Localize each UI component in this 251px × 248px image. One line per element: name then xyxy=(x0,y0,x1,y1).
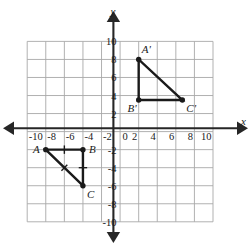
vertex-label-C: C xyxy=(87,188,95,200)
coordinate-plot-svg: -10-8-6-4-20246810 108642-2-4-6-8-10 y x… xyxy=(0,0,251,248)
y-tick-label: 8 xyxy=(111,54,116,65)
y-tick-label: 6 xyxy=(111,72,116,83)
vertex-dot-A-prime xyxy=(136,57,141,62)
vertex-dot-A xyxy=(43,147,48,152)
vertex-dot-C xyxy=(80,183,85,188)
y-tick-label: -10 xyxy=(103,217,117,228)
vertex-dot-B-prime xyxy=(136,97,141,102)
x-tick-label: 0 xyxy=(123,131,128,142)
y-axis-down-arrow-icon xyxy=(107,232,120,243)
y-tick-label: -8 xyxy=(108,199,117,210)
x-tick-label: 2 xyxy=(132,131,137,142)
x-tick-label: -10 xyxy=(29,131,43,142)
x-tick-label: -6 xyxy=(66,131,75,142)
y-axis-label: y xyxy=(110,5,116,17)
x-tick-label: 10 xyxy=(201,131,212,142)
coordinate-plane-figure: -10-8-6-4-20246810 108642-2-4-6-8-10 y x… xyxy=(0,0,251,248)
vertex-label-B: B xyxy=(89,143,96,155)
y-tick-label: 10 xyxy=(106,36,117,47)
x-tick-label: 8 xyxy=(188,131,193,142)
x-axis-label: x xyxy=(240,115,246,127)
y-tick-label: 2 xyxy=(111,109,116,120)
vertex-label-A-prime: A' xyxy=(141,43,152,55)
vertex-label-B-prime: B' xyxy=(128,102,138,114)
x-axis-left-arrow-icon xyxy=(3,122,14,135)
y-tick-label: -6 xyxy=(108,181,117,192)
y-tick-label: -2 xyxy=(108,145,117,156)
y-tick-label: -4 xyxy=(108,163,117,174)
vertex-label-A: A xyxy=(32,143,40,155)
x-tick-label: -4 xyxy=(84,131,93,142)
x-tick-label: -2 xyxy=(103,131,112,142)
vertex-dot-C-prime xyxy=(180,97,185,102)
x-tick-label: 6 xyxy=(169,131,174,142)
axes xyxy=(3,11,248,243)
x-tick-label: -8 xyxy=(47,131,56,142)
y-tick-label: 4 xyxy=(111,91,117,102)
vertex-dot-B xyxy=(80,147,85,152)
x-tick-label: 4 xyxy=(151,131,157,142)
vertex-label-C-prime: C' xyxy=(186,102,196,114)
